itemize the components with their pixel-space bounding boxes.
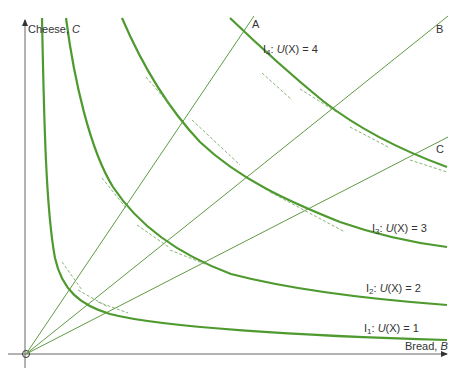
ray-b <box>26 16 448 354</box>
curve-i1-func: U <box>378 322 386 334</box>
ray-a-label: A <box>252 18 259 30</box>
curve-i3-value: = 3 <box>411 222 427 234</box>
x-axis-label: Bread, B <box>405 340 448 352</box>
y-axis-label: Cheese, C <box>28 23 80 35</box>
curve-i2-func: U <box>380 282 388 294</box>
x-axis-var: B <box>440 340 447 352</box>
curve-i3-func: U <box>386 222 394 234</box>
curve-i3-arg: (X) <box>394 222 409 234</box>
y-axis-var: C <box>72 23 80 35</box>
curve-i4-label: I4: U(X) = 4 <box>263 43 318 59</box>
curve-i2-arg: (X) <box>388 282 403 294</box>
ray-a <box>26 16 254 354</box>
curve-i3-label: I3: U(X) = 3 <box>372 222 427 238</box>
y-axis-label-text: Cheese, <box>28 23 69 35</box>
curve-i2-value: = 2 <box>405 282 421 294</box>
curve-i1-arg: (X) <box>386 322 401 334</box>
x-axis-label-text: Bread, <box>405 340 437 352</box>
ray-c-label: C <box>436 143 444 155</box>
curve-i2-label: I2: U(X) = 2 <box>366 282 421 298</box>
curve-i4-func: U <box>277 43 285 55</box>
curve-i1-value: = 1 <box>403 322 419 334</box>
ray-b-label: B <box>436 23 443 35</box>
curve-i1-label: I1: U(X) = 1 <box>364 322 419 338</box>
tangent-lines <box>62 73 447 313</box>
curve-i4-value: = 4 <box>302 43 318 55</box>
curve-i4-arg: (X) <box>285 43 300 55</box>
indifference-map-diagram <box>0 0 462 374</box>
curve-i2 <box>66 18 447 305</box>
curve-i4 <box>230 18 447 167</box>
